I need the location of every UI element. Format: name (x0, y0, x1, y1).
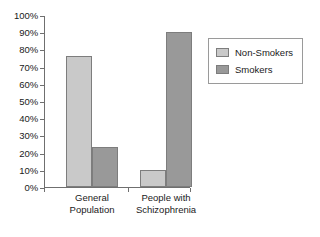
y-axis-tick-label: 20% (19, 149, 38, 159)
legend-item-smokers: Smokers (216, 61, 293, 78)
y-axis-line (44, 16, 45, 188)
y-axis-tick-label: 10% (19, 166, 38, 176)
bar (166, 32, 192, 187)
category-label-line: People with (106, 192, 226, 204)
legend-swatch-non-smokers (216, 48, 229, 57)
plot-area: 100%90%80%70%60%50%40%30%20%10%0% (44, 16, 190, 188)
x-axis-line (44, 187, 190, 188)
legend: Non-Smokers Smokers (208, 38, 303, 84)
y-axis-tick-label: 50% (19, 97, 38, 107)
y-axis-tick-label: 30% (19, 132, 38, 142)
y-axis-tick (40, 102, 44, 103)
y-axis-tick (40, 154, 44, 155)
bar (140, 170, 166, 187)
category-label-line: Schizophrenia (106, 204, 226, 216)
legend-label-smokers: Smokers (235, 65, 272, 75)
y-axis-tick-label: 90% (19, 28, 38, 38)
y-axis-tick (40, 85, 44, 86)
y-axis-tick-label: 70% (19, 63, 38, 73)
y-axis-tick-label: 80% (19, 46, 38, 56)
y-axis-tick (40, 119, 44, 120)
y-axis-tick (40, 16, 44, 17)
y-axis-tick (40, 171, 44, 172)
bar-chart: 100%90%80%70%60%50%40%30%20%10%0% Genera… (0, 0, 320, 237)
legend-swatch-smokers (216, 65, 229, 74)
y-axis-tick (40, 33, 44, 34)
y-axis-tick-label: 100% (14, 11, 38, 21)
y-axis-tick (40, 50, 44, 51)
y-axis-tick-label: 40% (19, 114, 38, 124)
y-axis-tick (40, 68, 44, 69)
y-axis-tick (40, 136, 44, 137)
legend-item-non-smokers: Non-Smokers (216, 44, 293, 61)
legend-label-non-smokers: Non-Smokers (235, 48, 293, 58)
bar (92, 147, 118, 187)
bar (66, 56, 92, 187)
y-axis-tick-label: 60% (19, 80, 38, 90)
category-label: People withSchizophrenia (106, 192, 226, 215)
